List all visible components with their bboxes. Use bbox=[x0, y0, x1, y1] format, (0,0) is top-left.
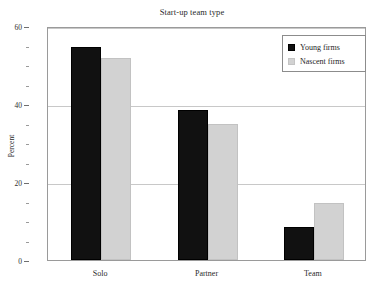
legend-swatch-icon-young-firms bbox=[288, 44, 295, 51]
y-tick-minor-45 bbox=[26, 86, 29, 87]
y-tick-major-40 bbox=[24, 105, 29, 106]
bar-solo-nascent-firms bbox=[101, 58, 131, 260]
legend-swatch-icon-nascent-firms bbox=[288, 58, 295, 65]
y-tick-minor-35 bbox=[26, 125, 29, 126]
legend-label-young-firms: Young firms bbox=[300, 43, 340, 52]
legend-item-young-firms: Young firms bbox=[288, 40, 360, 54]
y-tick-minor-50 bbox=[26, 66, 29, 67]
x-tick-label-partner: Partner bbox=[195, 269, 218, 278]
y-tick-minor-55 bbox=[26, 47, 29, 48]
y-axis-title: Percent bbox=[7, 135, 16, 158]
y-tick-major-20 bbox=[24, 183, 29, 184]
y-tick-label-60: 60 bbox=[0, 23, 22, 32]
y-tick-minor-10 bbox=[26, 222, 29, 223]
y-tick-label-0: 0 bbox=[0, 257, 22, 266]
gridline-60 bbox=[48, 28, 365, 29]
x-tick-label-solo: Solo bbox=[93, 269, 108, 278]
x-tick-label-team: Team bbox=[304, 269, 322, 278]
chart-title: Start-up team type bbox=[0, 7, 384, 17]
y-tick-label-40: 40 bbox=[0, 101, 22, 110]
y-tick-major-60 bbox=[24, 27, 29, 28]
legend-label-nascent-firms: Nascent firms bbox=[300, 57, 345, 66]
y-tick-label-20: 20 bbox=[0, 179, 22, 188]
y-tick-minor-5 bbox=[26, 242, 29, 243]
y-tick-minor-25 bbox=[26, 164, 29, 165]
bar-partner-young-firms bbox=[178, 110, 208, 260]
y-tick-major-0 bbox=[24, 261, 29, 262]
chart-figure: Start-up team type Percent 0204060 Young… bbox=[0, 0, 384, 292]
y-tick-minor-15 bbox=[26, 203, 29, 204]
legend-item-nascent-firms: Nascent firms bbox=[288, 54, 360, 68]
bar-team-young-firms bbox=[284, 227, 314, 260]
bar-team-nascent-firms bbox=[314, 203, 344, 260]
bar-solo-young-firms bbox=[71, 47, 101, 260]
y-tick-minor-30 bbox=[26, 144, 29, 145]
bar-partner-nascent-firms bbox=[208, 124, 238, 261]
y-axis: Percent 0204060 bbox=[0, 0, 47, 292]
chart-legend: Young firms Nascent firms bbox=[282, 35, 366, 72]
